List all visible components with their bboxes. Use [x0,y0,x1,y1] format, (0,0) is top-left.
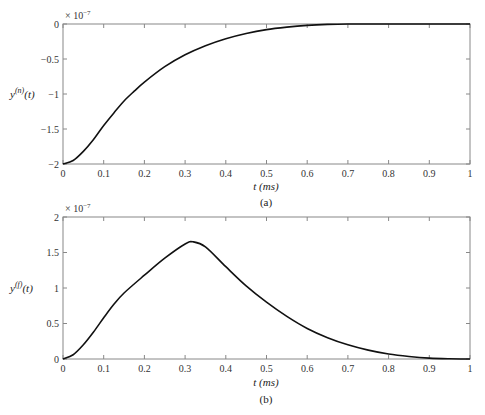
x-tick-label: 0.7 [342,168,355,179]
x-tick-label: 0.3 [179,168,192,179]
x-tick-label: 0 [61,168,66,179]
panel-a-x-ticks: 00.10.20.30.40.50.60.70.80.91 [61,24,473,179]
panel-b-scale-label: × 10−7 [65,202,91,214]
panel-a-caption: (a) [260,196,273,209]
x-tick-label: 0 [61,363,66,374]
y-tick-label: 1 [54,283,59,294]
x-tick-label: 0.7 [342,363,355,374]
x-tick-label: 0.2 [138,363,151,374]
panel-b-plot-frame [63,217,470,359]
panel-b-y-ticks: 00.511.52 [47,212,471,365]
x-tick-label: 0.9 [423,168,436,179]
x-tick-label: 0.2 [138,168,151,179]
panel-b-curve [63,242,470,359]
y-tick-label: 0.5 [47,318,60,329]
panel-a-curve [63,24,470,164]
x-tick-label: 0.6 [301,363,314,374]
y-tick-label: −1 [48,89,59,100]
panel-b-caption: (b) [260,393,273,406]
x-tick-label: 0.1 [97,363,110,374]
y-tick-label: 1.5 [47,247,60,258]
x-tick-label: 0.4 [220,363,233,374]
x-tick-label: 0.8 [382,363,395,374]
y-tick-label: −1.5 [41,124,59,135]
x-tick-label: 0.9 [423,363,436,374]
x-tick-label: 0.8 [382,168,395,179]
panel-a-plot-frame [63,24,470,164]
x-tick-label: 1 [468,363,473,374]
x-tick-label: 0.5 [260,363,273,374]
x-tick-label: 0.1 [97,168,110,179]
x-tick-label: 0.3 [179,363,192,374]
x-tick-label: 1 [468,168,473,179]
figure: 00.10.20.30.40.50.60.70.80.91 −2−1.5−1−0… [0,0,485,415]
panel-a-y-ticks: −2−1.5−1−0.50 [41,19,470,170]
x-tick-label: 0.4 [220,168,233,179]
panel-a: 00.10.20.30.40.50.60.70.80.91 −2−1.5−1−0… [9,9,473,209]
y-tick-label: 2 [54,212,59,223]
y-tick-label: 0 [54,19,59,30]
panel-b-x-axis-label: t (ms) [253,376,279,389]
panel-b-y-axis-label: y(f)(t) [9,280,33,295]
panel-a-x-axis-label: t (ms) [253,180,279,193]
x-tick-label: 0.6 [301,168,314,179]
x-tick-label: 0.5 [260,168,273,179]
y-tick-label: 0 [54,354,59,365]
panel-a-scale-label: × 10−7 [65,9,91,21]
panel-a-y-axis-label: y(n)(t) [9,86,35,101]
y-tick-label: −2 [48,159,59,170]
y-tick-label: −0.5 [41,54,59,65]
panel-b: 00.10.20.30.40.50.60.70.80.91 00.511.52 … [9,202,473,406]
